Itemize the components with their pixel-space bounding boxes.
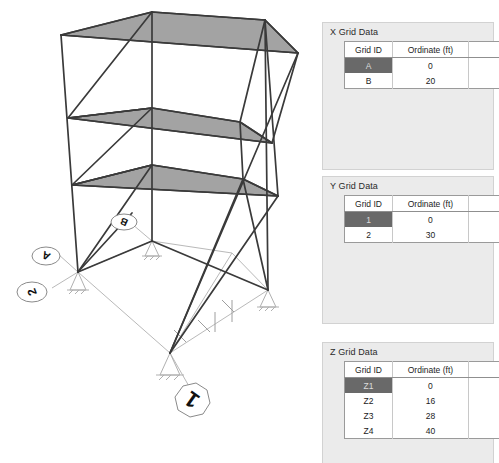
cell-empty[interactable] <box>345 88 393 89</box>
cell-pad[interactable] <box>468 73 499 88</box>
table-empty-space[interactable] <box>345 88 499 89</box>
cell-grid-id[interactable]: 2 <box>345 227 393 242</box>
table-row[interactable]: 1 0 <box>345 212 499 228</box>
table-row[interactable]: B 20 <box>345 73 499 88</box>
cell-grid-id[interactable]: Z4 <box>345 423 393 439</box>
cell-pad[interactable] <box>468 58 499 74</box>
panel-y-title: Y Grid Data <box>330 181 378 191</box>
table-row[interactable]: Z4 40 <box>345 423 499 439</box>
table-row[interactable]: Z3 28 <box>345 408 499 423</box>
table-row[interactable]: Z2 16 <box>345 393 499 408</box>
table-row[interactable]: Z1 0 <box>345 378 499 394</box>
cell-ordinate[interactable]: 0 <box>393 378 469 394</box>
cell-ordinate[interactable]: 0 <box>393 212 469 228</box>
column-header-grid-id: Grid ID <box>345 362 393 378</box>
cell-grid-id[interactable]: Z1 <box>345 378 393 394</box>
ground-gridlines <box>52 224 268 388</box>
panel-z-title: Z Grid Data <box>330 347 378 357</box>
panel-z-grid-data: Z Grid Data Grid ID Ordinate (ft) Z1 0 Z… <box>322 342 494 463</box>
column-header-grid-id: Grid ID <box>345 42 393 58</box>
column-header-ordinate: Ordinate (ft) <box>393 196 469 212</box>
table-header-row: Grid ID Ordinate (ft) <box>345 42 499 58</box>
table-header-row: Grid ID Ordinate (ft) <box>345 362 499 378</box>
cell-pad[interactable] <box>468 212 499 228</box>
bubble-A[interactable]: A <box>32 247 60 265</box>
cell-empty[interactable] <box>468 242 499 243</box>
column-header-pad <box>468 196 499 212</box>
column-header-ordinate: Ordinate (ft) <box>393 362 469 378</box>
bubble-B[interactable]: B <box>111 214 137 230</box>
x-grid-table[interactable]: Grid ID Ordinate (ft) A 0 B 20 <box>344 41 499 89</box>
panel-x-title: X Grid Data <box>330 27 378 37</box>
z-grid-table[interactable]: Grid ID Ordinate (ft) Z1 0 Z2 16 Z3 <box>344 361 499 439</box>
bubble-1[interactable]: 1 <box>175 383 210 417</box>
panel-y-grid-data: Y Grid Data Grid ID Ordinate (ft) 1 0 2 <box>322 176 494 324</box>
brace-11 <box>170 179 243 353</box>
panel-x-grid-data: X Grid Data Grid ID Ordinate (ft) A 0 B <box>322 22 494 170</box>
cell-pad[interactable] <box>468 378 499 394</box>
grid-data-panels: X Grid Data Grid ID Ordinate (ft) A 0 B <box>320 0 494 463</box>
structural-model-drawing[interactable]: A B 2 1 <box>0 0 320 463</box>
cell-grid-id[interactable]: 1 <box>345 212 393 228</box>
cell-empty[interactable] <box>345 242 393 243</box>
support-symbols <box>67 241 279 380</box>
brace-6 <box>272 53 298 143</box>
cell-pad[interactable] <box>468 393 499 408</box>
brace-12 <box>170 196 278 353</box>
cell-ordinate[interactable]: 16 <box>393 393 469 408</box>
column-header-grid-id: Grid ID <box>345 196 393 212</box>
cell-grid-id[interactable]: B <box>345 73 393 88</box>
cell-pad[interactable] <box>468 227 499 242</box>
cell-grid-id[interactable]: Z3 <box>345 408 393 423</box>
cell-ordinate[interactable]: 0 <box>393 58 469 74</box>
cell-ordinate[interactable]: 20 <box>393 73 469 88</box>
column-header-ordinate: Ordinate (ft) <box>393 42 469 58</box>
cell-empty[interactable] <box>393 242 469 243</box>
cell-ordinate[interactable]: 30 <box>393 227 469 242</box>
column-A1 <box>61 35 78 272</box>
column-header-pad <box>468 42 499 58</box>
cell-ordinate[interactable]: 40 <box>393 423 469 439</box>
cell-empty[interactable] <box>468 88 499 89</box>
table-header-row: Grid ID Ordinate (ft) <box>345 196 499 212</box>
table-row[interactable]: 2 30 <box>345 227 499 242</box>
cell-pad[interactable] <box>468 423 499 439</box>
grid-bubbles: A B 2 1 <box>17 214 210 417</box>
table-row[interactable]: A 0 <box>345 58 499 74</box>
cell-pad[interactable] <box>468 408 499 423</box>
y-grid-table[interactable]: Grid ID Ordinate (ft) 1 0 2 30 <box>344 195 499 243</box>
cell-empty[interactable] <box>393 88 469 89</box>
cell-ordinate[interactable]: 28 <box>393 408 469 423</box>
cell-grid-id[interactable]: A <box>345 58 393 74</box>
cell-grid-id[interactable]: Z2 <box>345 393 393 408</box>
column-header-pad <box>468 362 499 378</box>
table-empty-space[interactable] <box>345 242 499 243</box>
bubble-2[interactable]: 2 <box>17 282 47 302</box>
model-viewport[interactable]: A B 2 1 <box>0 0 320 463</box>
